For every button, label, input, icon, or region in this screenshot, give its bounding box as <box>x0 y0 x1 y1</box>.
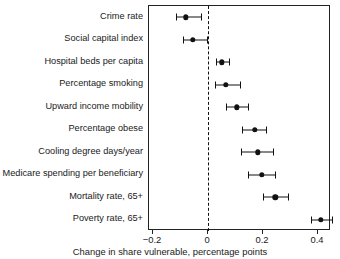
data-point-marker <box>252 127 257 132</box>
ci-cap-high <box>248 104 249 111</box>
data-row <box>149 209 331 232</box>
data-row <box>149 141 331 164</box>
ci-cap-low <box>241 149 242 156</box>
ci-cap-low <box>248 171 249 178</box>
data-row <box>149 186 331 209</box>
x-tick-label: 0.4 <box>310 234 323 245</box>
data-row <box>149 6 331 29</box>
ci-cap-low <box>311 216 312 223</box>
ci-cap-low <box>176 14 177 21</box>
ci-cap-high <box>201 14 202 21</box>
data-point-marker <box>223 82 228 87</box>
y-axis-label: Poverty rate, 65+ <box>0 213 143 223</box>
data-point-marker <box>190 37 195 42</box>
confidence-interval-line <box>176 17 201 18</box>
ci-cap-high <box>229 59 230 66</box>
ci-cap-high <box>266 126 267 133</box>
ci-cap-high <box>288 194 289 201</box>
x-tick-label: −0.2 <box>143 234 162 245</box>
data-point-marker <box>255 150 260 155</box>
ci-cap-low <box>215 81 216 88</box>
data-row <box>149 74 331 97</box>
data-point-marker <box>273 195 278 200</box>
y-axis-label: Cooling degree days/year <box>0 146 143 156</box>
y-axis-label: Percentage obese <box>0 123 143 133</box>
coefficient-plot-figure: Crime rateSocial capital indexHospital b… <box>0 0 340 259</box>
plot-area <box>148 5 330 230</box>
ci-cap-low <box>263 194 264 201</box>
ci-cap-high <box>207 36 208 43</box>
data-row <box>149 51 331 74</box>
ci-cap-low <box>242 126 243 133</box>
ci-cap-high <box>275 171 276 178</box>
data-row <box>149 119 331 142</box>
ci-cap-low <box>216 59 217 66</box>
y-axis-label: Social capital index <box>0 33 143 43</box>
ci-cap-high <box>332 216 333 223</box>
ci-cap-high <box>273 149 274 156</box>
data-row <box>149 164 331 187</box>
data-point-marker <box>219 60 224 65</box>
data-point-marker <box>259 172 264 177</box>
y-axis-label: Upward income mobility <box>0 101 143 111</box>
y-axis-label: Hospital beds per capita <box>0 56 143 66</box>
x-axis-title: Change in share vulnerable, percentage p… <box>0 246 340 257</box>
x-tick-label: 0.2 <box>255 234 268 245</box>
data-row <box>149 96 331 119</box>
y-axis-label: Medicare spending per beneficiary <box>0 168 143 178</box>
data-point-marker <box>318 217 323 222</box>
y-axis-label: Crime rate <box>0 11 143 21</box>
y-axis-label: Percentage smoking <box>0 78 143 88</box>
ci-cap-high <box>240 81 241 88</box>
data-point-marker <box>183 15 188 20</box>
data-point-marker <box>234 105 239 110</box>
data-row <box>149 29 331 52</box>
y-axis-label: Mortality rate, 65+ <box>0 191 143 201</box>
ci-cap-low <box>183 36 184 43</box>
ci-cap-low <box>226 104 227 111</box>
x-tick-label: 0 <box>204 234 209 245</box>
